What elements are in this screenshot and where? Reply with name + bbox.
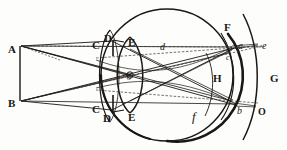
label-A: A [8,44,16,55]
label-O: O [258,107,266,117]
diagram-canvas [0,0,287,150]
label-G: G [270,73,279,84]
label-e: e [262,41,266,51]
label-f: f [192,110,196,123]
label-d: d [160,42,165,52]
label-F: F [224,22,231,33]
label-E-top: E [128,37,135,48]
label-a: a [238,41,243,51]
label-C-bottom: C [92,104,100,115]
label-C-top: C [92,40,100,51]
label-B: B [8,98,15,109]
label-o-lens-centre: o [127,74,131,82]
label-D-top: D [104,33,112,44]
label-H: H [213,73,222,84]
label-b: b [237,106,242,116]
label-c: c [226,54,230,62]
optical-diagram-figure: A B C D E C D E o d F a e c H G f b O [0,0,287,150]
label-D-bottom: D [103,113,111,124]
label-E-bottom: E [128,112,135,123]
